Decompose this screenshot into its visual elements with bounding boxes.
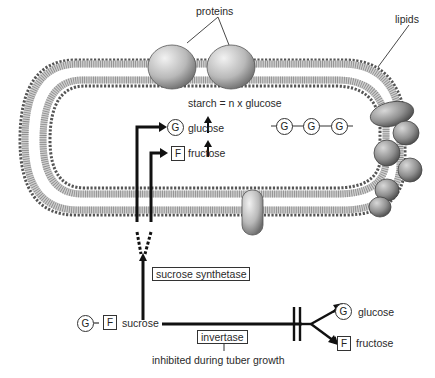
fructose-symbol: F	[171, 146, 185, 161]
proteins-label: proteins	[196, 5, 233, 17]
glucose-symbol: G	[167, 119, 184, 136]
cell-membrane-diagram: proteins lipids starch = n x glucose G g…	[0, 0, 435, 378]
lipid-bilayer	[20, 60, 405, 215]
fructose-label: fructose	[188, 147, 225, 159]
membrane-artwork	[0, 0, 435, 378]
invertase-label: invertase	[197, 330, 248, 344]
starch-glucose-unit-2: G	[303, 118, 320, 135]
sucrose-glucose-symbol: G	[77, 315, 94, 332]
sucrose-synthetase-label: sucrose synthetase	[152, 267, 250, 281]
product-glucose-label: glucose	[358, 306, 394, 318]
proteins-pointer-left	[187, 17, 218, 43]
starch-glucose-unit-1: G	[276, 118, 293, 135]
proteins-pointer-right	[218, 17, 229, 45]
glucose-label: glucose	[188, 122, 224, 134]
starch-equation: starch = n x glucose	[188, 97, 282, 109]
split-arrows	[302, 310, 336, 341]
inhibited-note: inhibited during tuber growth	[152, 354, 285, 366]
arrowheads	[139, 122, 343, 347]
product-fructose-label: fructose	[356, 337, 393, 349]
lipids-pointer	[378, 25, 409, 67]
sucrose-fructose-symbol: F	[103, 315, 117, 330]
product-glucose-symbol: G	[335, 303, 352, 320]
sucrose-label: sucrose	[122, 317, 159, 329]
lipids-label: lipids	[395, 13, 419, 25]
starch-glucose-unit-3: G	[331, 118, 348, 135]
product-fructose-symbol: F	[337, 336, 351, 351]
